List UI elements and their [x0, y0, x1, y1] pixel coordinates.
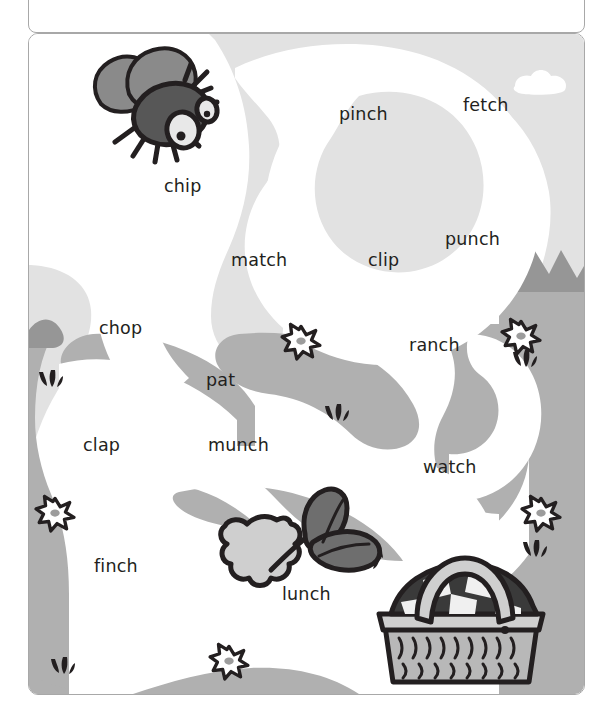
- maze-word-munch[interactable]: munch: [208, 437, 269, 455]
- maze-word-clip[interactable]: clip: [368, 252, 399, 270]
- header-box: [28, 0, 585, 33]
- maze-word-finch[interactable]: finch: [94, 558, 138, 576]
- maze-word-ranch[interactable]: ranch: [409, 337, 460, 355]
- maze-word-fetch[interactable]: fetch: [463, 97, 509, 115]
- maze-word-pat[interactable]: pat: [206, 372, 235, 390]
- maze-word-pinch[interactable]: pinch: [339, 106, 388, 124]
- worksheet-page: pinch fetch chip punch match clip chop r…: [0, 0, 612, 724]
- maze-word-clap[interactable]: clap: [83, 437, 120, 455]
- maze-frame: pinch fetch chip punch match clip chop r…: [28, 33, 585, 695]
- maze-word-match[interactable]: match: [231, 252, 287, 270]
- maze-word-chip[interactable]: chip: [164, 178, 201, 196]
- maze-word-lunch[interactable]: lunch: [282, 586, 331, 604]
- maze-word-punch[interactable]: punch: [445, 231, 500, 249]
- maze-word-watch[interactable]: watch: [423, 459, 477, 477]
- maze-word-chop[interactable]: chop: [99, 320, 142, 338]
